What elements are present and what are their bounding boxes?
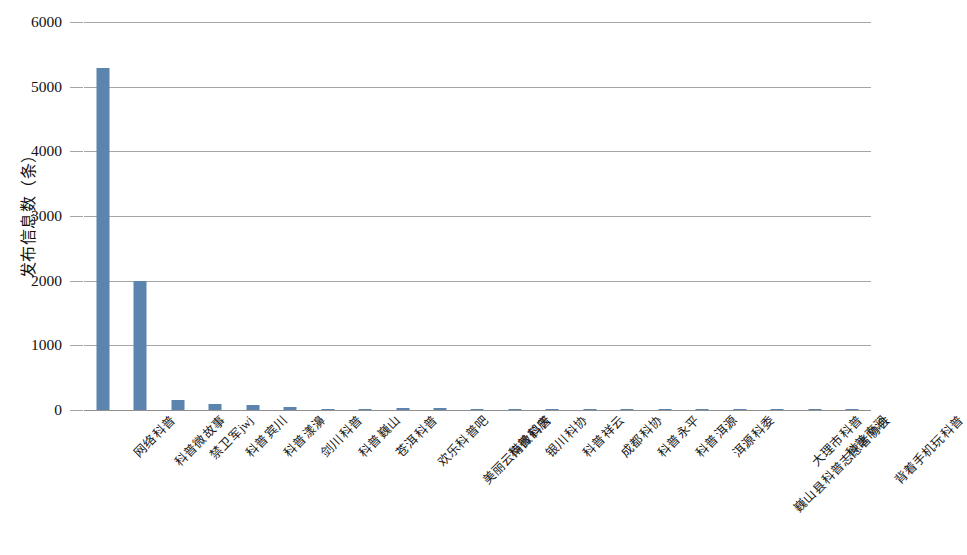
bar[interactable]: [546, 409, 559, 410]
y-tick-mark: [70, 345, 83, 346]
bar[interactable]: [658, 409, 671, 410]
bar-slot: [384, 22, 421, 410]
bar[interactable]: [696, 409, 709, 410]
y-axis-ticks: 6000500040003000200010000: [0, 0, 84, 388]
bar-slot: [759, 22, 796, 410]
bar-slot: [684, 22, 721, 410]
bar[interactable]: [209, 404, 222, 410]
y-tick-mark: [70, 281, 83, 282]
x-axis-labels: 网络科普科普微故事禁卫军jwj科普宾川科普漾濞剑川科普科普巍山苍洱科普欢乐科普吧…: [84, 414, 871, 554]
x-tick-label: 背着手机玩科普: [893, 414, 967, 488]
bar[interactable]: [583, 409, 596, 410]
bar-slot: [834, 22, 871, 410]
bar-slot: [796, 22, 833, 410]
bar[interactable]: [733, 409, 746, 410]
y-tick-mark: [70, 22, 83, 23]
bar-slot: [571, 22, 608, 410]
bar-slot: [609, 22, 646, 410]
bar-slot: [196, 22, 233, 410]
y-tick-label: 4000: [2, 143, 62, 159]
bar-slot: [121, 22, 158, 410]
y-tick-mark: [70, 151, 83, 152]
bar[interactable]: [359, 409, 372, 410]
bar-slot: [459, 22, 496, 410]
bar[interactable]: [284, 407, 297, 410]
bar[interactable]: [621, 409, 634, 410]
plot-area: [84, 22, 871, 410]
y-tick-label: 0: [2, 402, 62, 418]
bar[interactable]: [846, 409, 859, 410]
bar[interactable]: [96, 68, 109, 410]
y-tick-mark: [70, 410, 83, 411]
x-tick-label: 网络科普: [132, 414, 178, 460]
bar[interactable]: [246, 405, 259, 410]
bar-slot: [309, 22, 346, 410]
gridline: [84, 410, 871, 411]
bar[interactable]: [471, 409, 484, 410]
bar[interactable]: [434, 408, 447, 410]
bar[interactable]: [171, 400, 184, 410]
bar[interactable]: [396, 408, 409, 410]
bar[interactable]: [321, 409, 334, 410]
bar-slot: [271, 22, 308, 410]
bar[interactable]: [508, 409, 521, 410]
bar-slot: [346, 22, 383, 410]
y-tick-mark: [70, 87, 83, 88]
bars-layer: [84, 22, 871, 410]
y-tick-label: 2000: [2, 273, 62, 289]
bar-slot: [421, 22, 458, 410]
bar-slot: [234, 22, 271, 410]
bar-slot: [84, 22, 121, 410]
y-tick-label: 6000: [2, 14, 62, 30]
bar-slot: [496, 22, 533, 410]
bar[interactable]: [134, 281, 147, 410]
bar-slot: [159, 22, 196, 410]
y-tick-label: 1000: [2, 337, 62, 353]
bar-slot: [534, 22, 571, 410]
y-tick-label: 3000: [2, 208, 62, 224]
bar-slot: [646, 22, 683, 410]
x-tick-label: 欢乐科普吧: [436, 414, 491, 469]
bar[interactable]: [808, 409, 821, 410]
bar[interactable]: [771, 409, 784, 410]
bar-slot: [721, 22, 758, 410]
y-tick-label: 5000: [2, 79, 62, 95]
y-tick-mark: [70, 216, 83, 217]
